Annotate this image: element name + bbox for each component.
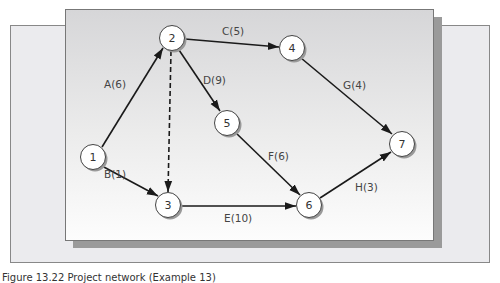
label-A: A(6) [104,78,126,90]
label-F: F(6) [268,150,289,162]
label-C: C(5) [222,25,244,37]
svg-text:1: 1 [90,151,97,164]
svg-text:7: 7 [399,138,406,151]
label-H: H(3) [355,181,378,193]
svg-text:3: 3 [165,199,172,212]
svg-text:5: 5 [224,117,231,130]
svg-text:2: 2 [169,32,176,45]
label-E: E(10) [224,212,252,224]
svg-text:4: 4 [289,42,296,55]
figure-caption: Figure 13.22 Project network (Example 13… [2,272,216,283]
label-G: G(4) [343,79,366,91]
label-B: B(1) [104,168,126,180]
svg-text:6: 6 [306,199,313,212]
label-D: D(9) [203,74,226,86]
